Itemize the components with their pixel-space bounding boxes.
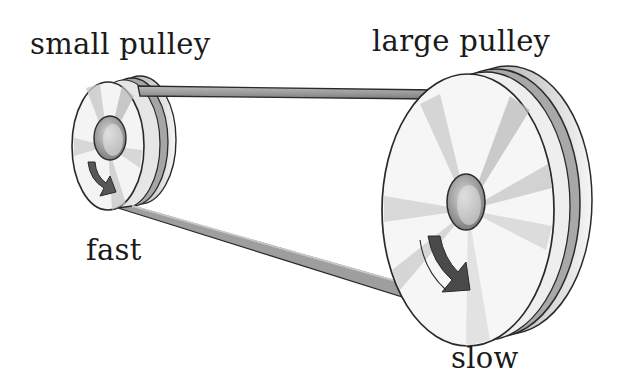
small-pulley-speed-label: fast [86, 236, 142, 265]
small-pulley-label: small pulley [30, 30, 210, 59]
belt-drive-diagram: small pulley large pulley fast slow [0, 0, 626, 388]
large-pulley-label: large pulley [372, 27, 550, 56]
large-pulley [382, 74, 554, 346]
small-pulley [72, 82, 144, 210]
large-pulley-speed-label: slow [451, 344, 519, 373]
